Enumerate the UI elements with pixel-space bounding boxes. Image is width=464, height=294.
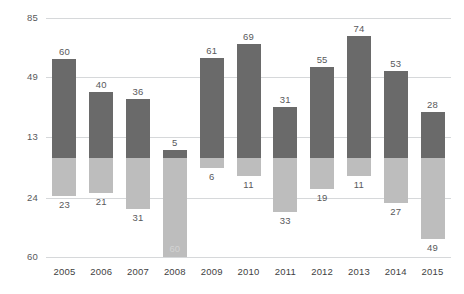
bar-positive bbox=[163, 150, 187, 158]
bar-value-label: 49 bbox=[413, 242, 453, 253]
bar-positive bbox=[126, 99, 150, 158]
bar-value-label: 28 bbox=[413, 99, 453, 110]
bar-positive bbox=[237, 44, 261, 158]
bar-chart: 8549132460602320054021200636312007560200… bbox=[0, 0, 464, 294]
bar-positive bbox=[421, 112, 445, 158]
y-axis-tick-label: 49 bbox=[0, 71, 38, 82]
bar-value-label: 36 bbox=[118, 86, 158, 97]
plot-area: 8549132460602320054021200636312007560200… bbox=[0, 0, 464, 294]
bar-negative bbox=[384, 158, 408, 203]
bar-value-label: 60 bbox=[44, 46, 84, 57]
bar-value-label: 6 bbox=[192, 171, 232, 182]
gridline bbox=[46, 18, 451, 19]
y-axis-tick-label: 24 bbox=[0, 192, 38, 203]
bar-positive bbox=[347, 36, 371, 158]
bar-value-label: 55 bbox=[302, 54, 342, 65]
bar-negative bbox=[52, 158, 76, 196]
bar-positive bbox=[89, 92, 113, 158]
bar-value-label: 11 bbox=[229, 179, 269, 190]
gridline bbox=[46, 257, 451, 258]
bar-value-label: 33 bbox=[265, 215, 305, 226]
bar-positive bbox=[384, 71, 408, 158]
bar-negative bbox=[89, 158, 113, 193]
bar-value-label: 60 bbox=[155, 243, 195, 254]
bar-value-label: 69 bbox=[229, 31, 269, 42]
bar-value-label: 23 bbox=[44, 199, 84, 210]
y-axis-tick-label: 60 bbox=[0, 251, 38, 262]
bar-positive bbox=[310, 67, 334, 158]
bar-value-label: 27 bbox=[376, 206, 416, 217]
bar-negative bbox=[237, 158, 261, 176]
bar-value-label: 21 bbox=[81, 196, 121, 207]
bar-value-label: 53 bbox=[376, 58, 416, 69]
bar-value-label: 31 bbox=[118, 212, 158, 223]
bar-value-label: 61 bbox=[192, 45, 232, 56]
bar-value-label: 5 bbox=[155, 137, 195, 148]
bar-negative bbox=[347, 158, 371, 176]
bar-positive bbox=[273, 107, 297, 158]
bar-value-label: 11 bbox=[339, 179, 379, 190]
x-axis-category-label: 2015 bbox=[411, 266, 455, 277]
bar-value-label: 40 bbox=[81, 79, 121, 90]
bar-value-label: 31 bbox=[265, 94, 305, 105]
y-axis-tick-label: 13 bbox=[0, 131, 38, 142]
bar-negative bbox=[310, 158, 334, 189]
bar-value-label: 19 bbox=[302, 192, 342, 203]
bar-negative bbox=[421, 158, 445, 239]
bar-positive bbox=[52, 59, 76, 158]
y-axis-tick-label: 85 bbox=[0, 12, 38, 23]
bar-negative bbox=[126, 158, 150, 209]
bar-negative bbox=[200, 158, 224, 168]
bar-value-label: 74 bbox=[339, 23, 379, 34]
bar-negative bbox=[273, 158, 297, 212]
bar-positive bbox=[200, 58, 224, 159]
